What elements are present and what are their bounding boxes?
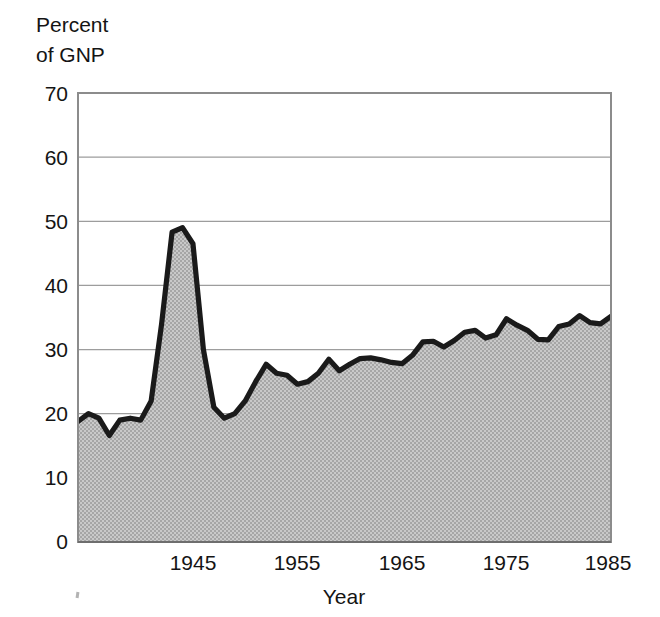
- x-tick-1945: 1945: [170, 551, 217, 574]
- y-tick-0: 0: [56, 530, 68, 553]
- x-tick-1955: 1955: [274, 551, 321, 574]
- y-tick-10: 10: [45, 466, 68, 489]
- x-axis-label: Year: [323, 585, 365, 608]
- gnp-area-chart: Percent of GNP 70 60 50 40 30 20 10 0 19…: [0, 0, 660, 617]
- y-tick-20: 20: [45, 402, 68, 425]
- y-tick-70: 70: [45, 82, 68, 105]
- y-axis-label-line1: Percent: [36, 13, 109, 36]
- y-tick-30: 30: [45, 338, 68, 361]
- x-tick-1965: 1965: [379, 551, 426, 574]
- x-tick-1975: 1975: [483, 551, 530, 574]
- x-tick-1985: 1985: [585, 551, 632, 574]
- y-tick-40: 40: [45, 274, 68, 297]
- y-tick-50: 50: [45, 210, 68, 233]
- y-axis-label-line2: of GNP: [36, 43, 105, 66]
- y-tick-60: 60: [45, 146, 68, 169]
